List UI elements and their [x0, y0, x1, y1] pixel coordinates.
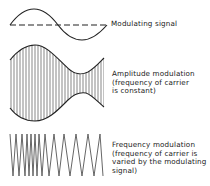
am-label-line-3: is constant) — [112, 87, 195, 96]
am-waveform-graphic — [10, 40, 104, 130]
fm-carrier-wave — [10, 134, 103, 176]
fm-label-line-4: signal) — [112, 167, 207, 176]
modulating-signal-label: Modulating signal — [111, 20, 177, 29]
am-upper-envelope — [10, 45, 104, 74]
am-label: Amplitude modulation (frequency of carri… — [112, 70, 195, 96]
fm-waveform-graphic — [10, 134, 103, 176]
am-lower-envelope — [10, 93, 104, 121]
modulating-signal-text: Modulating signal — [111, 20, 177, 29]
fm-label: Frequency modulation (frequency of carri… — [112, 141, 207, 175]
modulating-signal-graphic — [10, 9, 108, 40]
